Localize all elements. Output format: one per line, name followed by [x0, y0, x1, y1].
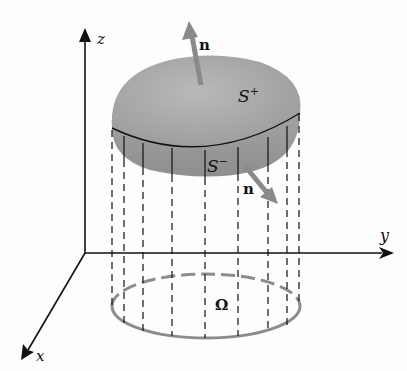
upper-normal-arrowhead-icon — [182, 21, 198, 40]
x-axis — [28, 253, 85, 350]
omega-back-edge — [112, 274, 300, 306]
upper-normal-label: n — [199, 36, 210, 54]
z-axis-arrowhead-icon — [79, 28, 91, 42]
y-axis-label: y — [379, 226, 390, 245]
x-axis-arrowhead-icon — [21, 344, 34, 360]
diagram-canvas: z y x n n S+ S− Ω — [0, 0, 407, 371]
region-omega-label: Ω — [215, 296, 228, 314]
region-omega — [112, 274, 300, 338]
omega-front-edge — [112, 306, 300, 338]
x-axis-label: x — [36, 347, 45, 365]
z-axis-label: z — [96, 30, 105, 48]
surface-integral-diagram: z y x n n S+ S− Ω — [0, 0, 407, 371]
lower-normal-label: n — [243, 180, 254, 198]
